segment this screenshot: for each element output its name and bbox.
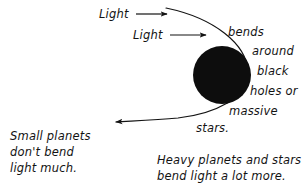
caption-line-massive: massive: [229, 103, 278, 119]
caption-line-black: black: [257, 63, 289, 79]
small-planets-note: Small planets don't bend light much.: [10, 128, 91, 176]
lensing-diagram: Light Light bends around black holes or …: [0, 0, 307, 191]
heavy-planets-note-line-2: bend light a lot more.: [157, 168, 301, 184]
small-planets-note-line-2: don't bend: [10, 144, 91, 160]
light-beam-2-label: Light: [133, 27, 163, 43]
small-planets-note-line-1: Small planets: [10, 128, 91, 144]
black-hole-body: [193, 46, 251, 104]
light-beam-1-label: Light: [99, 6, 129, 22]
caption-line-around: around: [252, 43, 294, 59]
small-planets-note-line-3: light much.: [10, 160, 91, 176]
caption-line-stars: stars.: [196, 120, 229, 136]
caption-line-holes-or: holes or: [250, 83, 298, 99]
caption-line-bends: bends: [228, 24, 264, 40]
heavy-planets-note-line-1: Heavy planets and stars: [157, 152, 301, 168]
heavy-planets-note: Heavy planets and stars bend light a lot…: [157, 152, 301, 184]
